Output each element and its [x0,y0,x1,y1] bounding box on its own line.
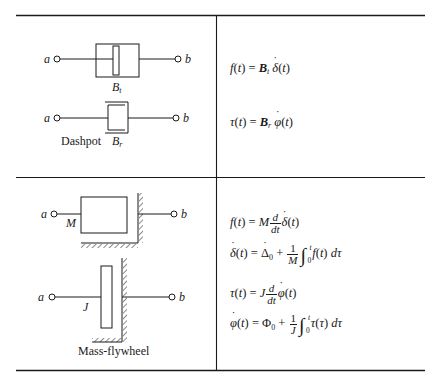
equation-flywheel-velocity: φ(t) = Φ0 + 1J∫t0 τ(τ) dτ [230,313,342,336]
terminal-a-icon [54,56,60,62]
equation-mass-velocity: δ(t) = Δ0 + 1M∫t0 f(t) dτ [230,243,341,266]
eq-sym: = [248,246,261,260]
rotational-damper-diagram [54,102,179,133]
dashpot-coefficient-label: Br [112,135,122,149]
coef-subscript: t [119,86,121,95]
eq-sym: ∫ [299,314,304,336]
dashpot-caption: Dashpot [61,135,101,147]
equation-mass-force: f(t) = Mddtδ(t) [230,212,299,235]
terminal-a-label: a [44,112,50,124]
eq-sym: M [287,254,298,266]
eq-sym: ) [292,286,296,300]
eq-sym: d [268,283,276,294]
eq-sym: r [268,121,271,130]
eq-sym: ) [295,215,299,229]
eq-sym: J [290,324,297,336]
damper-coefficient-label: Bt [112,81,122,95]
fraction-d-dt: ddt [266,283,277,306]
eq-sym: Φ [262,316,271,330]
eq-sym: ∫ [300,244,305,266]
terminal-a-label: a [41,208,47,220]
eq-sym: ) [289,115,293,129]
equation-damper-torque: τ(t) = Br φ(t) [230,116,293,130]
eq-sym: ) [323,246,327,260]
eq-sym: d [272,212,280,223]
eq-sym: + [275,316,288,330]
translational-damper-diagram [54,44,181,77]
eq-sym: = [246,115,259,129]
equation-flywheel-torque: τ(t) = Jddtφ(t) [230,283,297,306]
eq-sym: = [245,215,258,229]
eq-sym: ) [286,61,290,75]
inertia-label: J [83,301,88,313]
eq-sym: 1 [289,243,297,254]
eq-sym: 0 [306,327,310,335]
terminal-b-icon [175,56,181,62]
damper-piston [113,46,119,75]
eq-sym: t [267,67,269,76]
flywheel-diagram [49,258,175,342]
eq-sym: φ [274,116,281,129]
terminal-a-icon [54,115,60,121]
integral-icon: ∫t0 [299,315,304,335]
terminal-b-label: b [181,208,187,220]
eq-sym: J [260,286,266,300]
terminal-b-icon [171,211,177,217]
eq-sym: B [260,115,268,129]
integral-icon: ∫t0 [300,245,305,265]
terminal-a-icon [51,211,57,217]
mass-flywheel-caption: Mass-flywheel [78,345,149,357]
eq-sym: ) [324,316,328,330]
fraction-1-J: 1J [290,313,298,336]
eq-sym: dt [266,294,277,306]
wall-hatch-icon [123,258,127,342]
eq-sym: B [259,61,267,75]
eq-sym: + [273,246,286,260]
terminal-a-icon [49,294,55,300]
fraction-d-dt: ddt [270,212,281,235]
coef-subscript: r [119,140,122,149]
terminal-b-icon [173,115,179,121]
ground-hatch-icon [92,338,122,342]
terminal-b-label: b [179,291,185,303]
terminal-b-label: b [185,53,191,65]
eq-sym: dτ [331,316,342,330]
eq-sym: δ [230,247,236,260]
mechanical-elements-table [0,0,439,385]
eq-sym: δ [282,216,288,229]
fraction-1-M: 1M [287,243,298,266]
eq-sym: t [308,314,310,322]
eq-sym: M [259,215,269,229]
mass-label: M [66,217,76,229]
equation-damper-force: f(t) = Bt δ(t) [230,62,290,76]
eq-sym: dτ [331,246,342,260]
eq-sym: δ [272,62,278,75]
dashpot-bracket-inner [108,105,125,130]
wall-hatch-icon [139,193,143,243]
eq-sym: 1 [290,313,298,324]
terminal-a-label: a [38,291,44,303]
eq-sym: φ [278,287,285,300]
eq-sym: 0 [307,257,311,265]
terminal-a-label: a [44,53,50,65]
table-rules [16,15,425,371]
flywheel-plate [101,266,112,328]
eq-sym: t [309,244,311,252]
eq-sym: = [245,61,258,75]
eq-sym: φ [230,317,237,330]
eq-sym: Δ [261,247,269,260]
eq-sym: = [246,286,259,300]
ground-hatch-icon [81,244,138,248]
mass-block [81,197,127,233]
terminal-b-label: b [183,112,189,124]
eq-sym: = [249,316,262,330]
terminal-b-icon [169,294,175,300]
eq-sym: dt [270,223,281,235]
